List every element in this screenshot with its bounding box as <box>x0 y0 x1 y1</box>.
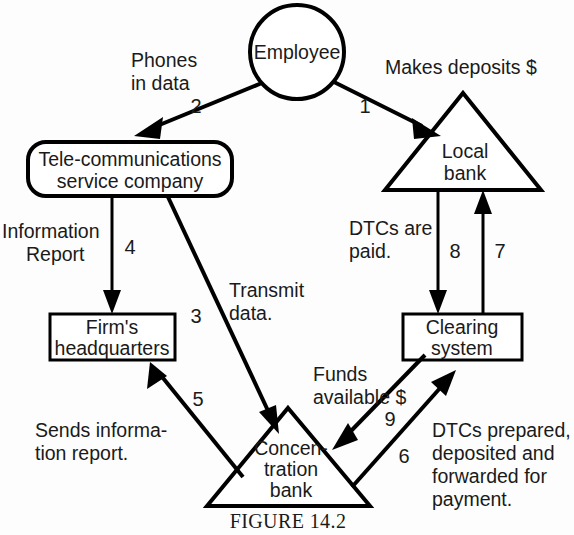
headquarters-label-line1: Firm's <box>86 316 139 338</box>
clearing-system-label-line2: system <box>431 337 493 359</box>
edge-4-number: 4 <box>124 236 135 258</box>
edge-1-label-line1: Makes deposits $ <box>385 56 537 78</box>
edge-4-label: Information Report 4 <box>2 220 136 265</box>
figure-container: Employee Tele-communications service com… <box>0 0 574 535</box>
edge-4-telecom-to-headquarters <box>103 197 121 314</box>
edge-6-number: 6 <box>398 445 409 467</box>
edge-8-local-bank-to-clearing <box>429 190 447 314</box>
node-local-bank: Local bank <box>385 93 541 190</box>
edge-9-number: 9 <box>384 408 395 430</box>
edge-9-label-line1: Funds <box>313 363 367 385</box>
headquarters-label-line2: headquarters <box>55 337 170 359</box>
concentration-label-line1: Concen- <box>254 437 328 459</box>
edge-6-label-line4: payment. <box>432 488 512 510</box>
process-flow-diagram: Employee Tele-communications service com… <box>0 0 574 535</box>
edge-7-arrowhead <box>474 190 492 214</box>
edge-8-label: DTCs are paid. 8 <box>349 217 461 262</box>
clearing-system-label-line1: Clearing <box>426 316 499 338</box>
employee-label: Employee <box>254 41 341 63</box>
edge-6-label: DTCs prepared, deposited and forwarded f… <box>398 419 570 510</box>
edge-7-clearing-to-local-bank <box>474 190 492 314</box>
edge-2-number: 2 <box>190 95 201 117</box>
edge-6-label-line1: DTCs prepared, <box>432 419 571 441</box>
node-employee: Employee <box>250 5 344 99</box>
edge-6-label-line2: deposited and <box>432 442 555 464</box>
edge-5-arrowhead <box>147 362 167 389</box>
edge-4-label-line2: Report <box>26 243 85 265</box>
node-telecom: Tele-communications service company <box>28 142 232 196</box>
edge-8-label-line2: paid. <box>349 240 391 262</box>
edge-2-arrowhead <box>134 117 163 139</box>
edge-5-label-line1: Sends informa- <box>35 419 167 441</box>
edge-7-label: 7 <box>494 240 505 262</box>
node-clearing-system: Clearing system <box>403 314 522 360</box>
edge-8-number: 8 <box>449 240 460 262</box>
node-headquarters: Firm's headquarters <box>50 314 175 360</box>
edge-7-number: 7 <box>494 240 505 262</box>
telecom-label-line1: Tele-communications <box>38 148 221 170</box>
figure-caption: FIGURE 14.2 <box>230 510 347 532</box>
edge-2-label-line1: Phones <box>131 49 197 71</box>
edge-4-label-line1: Information <box>2 220 100 242</box>
edge-3-number: 3 <box>190 305 201 327</box>
edge-9-label-line2: available $ <box>313 386 406 408</box>
edge-5-label-line2: tion report. <box>35 442 128 464</box>
edge-2-label: Phones in data 2 <box>131 49 202 117</box>
telecom-label-line2: service company <box>57 170 204 192</box>
edge-6-label-line3: forwarded for <box>432 465 547 487</box>
edge-5-number: 5 <box>192 388 203 410</box>
edge-8-label-line1: DTCs are <box>349 217 432 239</box>
edge-2-label-line2: in data <box>131 72 190 94</box>
local-bank-label-line2: bank <box>444 162 487 184</box>
concentration-label-line3: bank <box>270 479 313 501</box>
node-concentration-bank: Concen- tration bank <box>207 408 370 506</box>
edge-3-label-line1: Transmit <box>229 279 305 301</box>
edge-3-label-line2: data. <box>229 302 272 324</box>
edge-1-number: 1 <box>359 95 370 117</box>
edge-1-employee-to-local-bank <box>334 82 441 139</box>
edge-1-line <box>334 82 422 126</box>
edge-4-arrowhead <box>103 290 121 314</box>
local-bank-label-line1: Local <box>442 140 489 162</box>
concentration-label-line2: tration <box>264 458 318 480</box>
edge-8-arrowhead <box>429 290 447 314</box>
